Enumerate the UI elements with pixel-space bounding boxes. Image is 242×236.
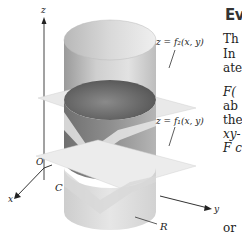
origin-label: O <box>36 158 43 167</box>
text-line: Th <box>223 33 239 45</box>
region-label: R <box>160 222 168 232</box>
text-line: the <box>223 114 242 126</box>
lower-surface-plane <box>36 140 196 188</box>
text-line: xy- <box>223 128 241 140</box>
lower-surface-leader <box>169 127 175 146</box>
text-line: ate <box>223 62 242 74</box>
x-axis <box>14 165 52 199</box>
text-line: In <box>223 48 235 60</box>
x-axis-label: x <box>8 195 13 204</box>
upper-surface-label: z = f₂(x, y) <box>156 38 204 47</box>
text-line: or <box>223 222 236 234</box>
z-axis-label: z <box>41 6 46 15</box>
lower-surface-label: z = f₁(x, y) <box>156 117 204 126</box>
y-axis-label: y <box>214 205 219 214</box>
section-heading: Ev <box>225 6 242 24</box>
upper-surface-leader <box>169 50 175 68</box>
cylinder-between-surfaces-figure <box>0 0 242 236</box>
text-line: F c <box>223 142 242 154</box>
y-axis <box>160 196 212 211</box>
text-line: ab <box>223 100 238 112</box>
curve-label: C <box>55 183 63 193</box>
text-line: F( <box>223 86 236 98</box>
